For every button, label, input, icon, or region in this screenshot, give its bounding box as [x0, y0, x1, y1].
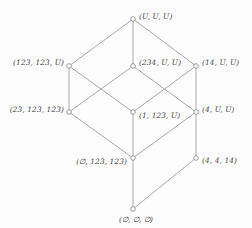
hasse-node [131, 156, 136, 161]
hasse-edge [69, 112, 133, 158]
hasse-node [67, 64, 72, 69]
hasse-edge [133, 158, 196, 209]
hasse-node [131, 17, 136, 22]
node-label-bottom: (∅, ∅, ∅) [119, 216, 153, 223]
hasse-diagram: (U, U, U)(123, 123, U)(234, U, U)(14, U,… [0, 0, 252, 228]
hasse-node [194, 64, 199, 69]
node-label-top: (U, U, U) [139, 13, 172, 20]
node-label-l4-U-U: (4, U, U) [202, 106, 235, 113]
node-label-l4-4-14: (4, 4, 14) [202, 157, 237, 164]
hasse-node [131, 110, 136, 115]
node-label-l0-123-123: (∅, 123, 123) [76, 158, 127, 165]
hasse-node [194, 156, 199, 161]
hasse-node [131, 207, 136, 212]
hasse-edge [69, 19, 133, 66]
node-label-l234-U-U: (234, U, U) [139, 59, 181, 66]
node-label-l123-123-U: (123, 123, U) [13, 59, 64, 66]
node-label-l1-123-U: (1, 123, U) [139, 112, 180, 119]
hasse-node [67, 110, 72, 115]
node-label-l14-U-U: (14, U, U) [202, 59, 239, 66]
hasse-node [131, 64, 136, 69]
hasse-node [194, 110, 199, 115]
node-label-l23-123-123: (23, 123, 123) [10, 106, 64, 113]
